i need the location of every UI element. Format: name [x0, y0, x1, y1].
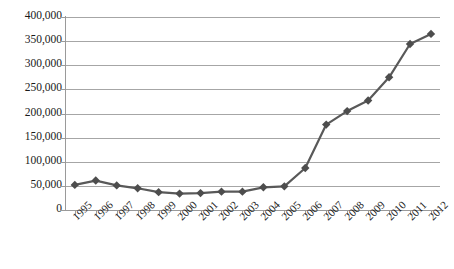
- y-axis-tick: [60, 138, 66, 139]
- gridline: [66, 114, 440, 115]
- y-axis-tick: [60, 186, 66, 187]
- gridline: [66, 17, 440, 18]
- gridline: [66, 186, 440, 187]
- gridline: [66, 162, 440, 163]
- y-axis-tick-label: 400,000: [2, 10, 62, 22]
- y-axis-tick-label: 300,000: [2, 58, 62, 70]
- gridline: [66, 138, 440, 139]
- y-axis-tick: [60, 114, 66, 115]
- y-axis-tick: [60, 89, 66, 90]
- y-axis-tick: [60, 210, 66, 211]
- y-axis-tick: [60, 162, 66, 163]
- y-axis-tick: [60, 17, 66, 18]
- y-axis-tick-label: 100,000: [2, 155, 62, 167]
- gridline: [66, 65, 440, 66]
- line-chart: 050,000100,000150,000200,000250,000300,0…: [0, 0, 454, 269]
- y-axis-tick: [60, 41, 66, 42]
- gridline: [66, 89, 440, 90]
- y-axis-tick-label: 250,000: [2, 82, 62, 94]
- y-axis-tick-label: 150,000: [2, 131, 62, 143]
- y-axis-labels: 050,000100,000150,000200,000250,000300,0…: [0, 0, 62, 269]
- y-axis-tick-label: 50,000: [2, 179, 62, 191]
- plot-area: [66, 17, 440, 210]
- y-axis-tick: [60, 65, 66, 66]
- y-axis-tick-label: 200,000: [2, 107, 62, 119]
- y-axis-tick-label: 0: [2, 203, 62, 215]
- gridline: [66, 41, 440, 42]
- y-axis-tick-label: 350,000: [2, 34, 62, 46]
